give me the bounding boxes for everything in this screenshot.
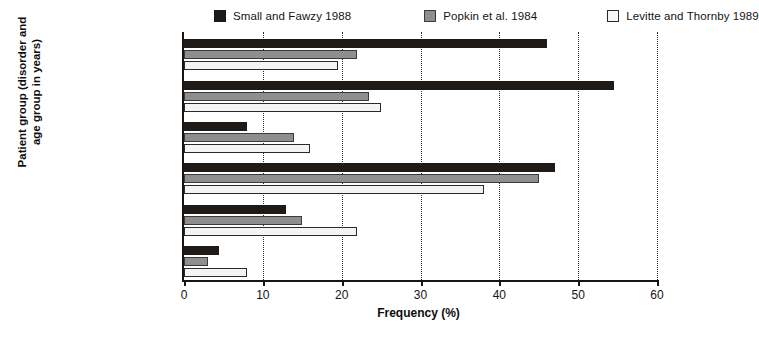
bar — [184, 103, 381, 112]
x-axis-tick-label: 0 — [164, 288, 204, 302]
legend-label-small-and-fawzy: Small and Fawzy 1988 — [233, 10, 351, 22]
legend-label-popkin: Popkin et al. 1984 — [443, 10, 537, 22]
bar — [184, 163, 555, 172]
bar — [184, 144, 310, 153]
x-axis-title: Frequency (%) — [182, 306, 655, 320]
x-axis-tick — [657, 280, 659, 286]
x-axis-tick — [578, 280, 580, 286]
gridline — [499, 32, 500, 280]
bar — [184, 81, 614, 90]
x-axis-tick-label: 20 — [322, 288, 362, 302]
x-axis-tick-label: 30 — [401, 288, 441, 302]
legend-swatch-levitte — [607, 10, 619, 22]
legend-item-levitte: Levitte and Thornby 1989 — [607, 10, 759, 22]
legend-swatch-popkin — [424, 10, 436, 22]
bar — [184, 122, 247, 131]
x-axis-tick — [184, 280, 186, 286]
x-axis-tick-label: 10 — [243, 288, 283, 302]
legend-item-popkin: Popkin et al. 1984 — [424, 10, 537, 22]
bar — [184, 185, 484, 194]
bar — [184, 39, 547, 48]
legend-item-small-and-fawzy: Small and Fawzy 1988 — [214, 10, 351, 22]
gridline — [421, 32, 422, 280]
y-axis-title: Patient group (disorder and age group in… — [15, 0, 43, 197]
bar — [184, 216, 302, 225]
x-axis-tick — [342, 280, 344, 286]
x-axis-tick — [499, 280, 501, 286]
bar — [184, 92, 369, 101]
y-axis-title-line1: Patient group (disorder and — [16, 17, 28, 168]
bar — [184, 61, 338, 70]
x-axis-tick — [421, 280, 423, 286]
x-axis-tick-label: 50 — [558, 288, 598, 302]
bar — [184, 227, 357, 236]
gridline — [342, 32, 343, 280]
plot-area: 0102030405060Mood (<60)Mood (>60)Cogniti… — [182, 32, 657, 282]
gridline — [578, 32, 579, 280]
bar — [184, 257, 208, 266]
bar — [184, 133, 294, 142]
bar — [184, 205, 286, 214]
chart-legend: Small and Fawzy 1988 Popkin et al. 1984 … — [182, 6, 679, 26]
legend-label-levitte: Levitte and Thornby 1989 — [626, 10, 759, 22]
bar — [184, 246, 219, 255]
bar — [184, 268, 247, 277]
x-axis-tick — [263, 280, 265, 286]
y-axis-title-line2: age group in years) — [30, 39, 42, 145]
x-axis-tick-label: 40 — [479, 288, 519, 302]
bar — [184, 50, 357, 59]
x-axis-tick-label: 60 — [637, 288, 677, 302]
bar — [184, 174, 539, 183]
gridline — [657, 32, 658, 280]
legend-swatch-small-and-fawzy — [214, 10, 226, 22]
